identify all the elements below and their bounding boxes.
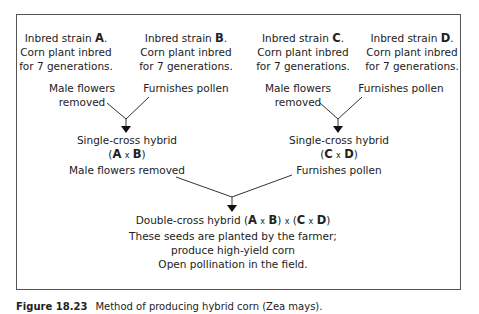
left-male-connector	[126, 97, 149, 119]
double-cross-hybrid: Double-cross hybrid (A x B) x (C x D) Th…	[129, 213, 337, 271]
bottom-right-connector	[232, 175, 292, 197]
strain-c-label: Inbred strain C. Corn plant inbred for 7…	[256, 31, 350, 73]
single-cross-left: Single-cross hybrid (A x B) Male flowers…	[69, 133, 185, 177]
strain-a-label: Inbred strain A. Corn plant inbred for 7…	[19, 31, 113, 73]
left-arrowhead	[121, 126, 131, 133]
single-cross-right: Single-cross hybrid (C x D) Furnishes po…	[289, 133, 389, 177]
bottom-left-connector	[176, 177, 232, 197]
right-arrowhead	[333, 126, 343, 133]
right-female-role: Male flowers removed	[265, 81, 331, 109]
bottom-arrowhead	[227, 205, 237, 212]
left-male-role: Furnishes pollen	[143, 81, 228, 95]
figure-caption: Figure 18.23Method of producing hybrid c…	[16, 300, 322, 314]
right-male-role: Furnishes pollen	[358, 81, 443, 95]
strain-d-label: Inbred strain D. Corn plant inbred for 7…	[365, 31, 459, 73]
figure-caption-text: Method of producing hybrid corn (Zea may…	[95, 301, 322, 312]
strain-b-label: Inbred strain B. Corn plant inbred for 7…	[139, 31, 233, 73]
figure-number: Figure 18.23	[16, 301, 87, 312]
right-male-connector	[338, 97, 362, 119]
left-female-role: Male flowers removed	[49, 81, 115, 109]
